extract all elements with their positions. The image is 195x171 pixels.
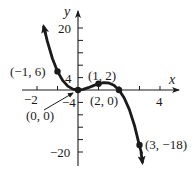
y-axis-label: y — [62, 4, 71, 19]
curve-arrow-top-icon — [44, 26, 46, 34]
x-tick-label-4: 4 — [156, 94, 163, 109]
point-neg1-6 — [54, 68, 60, 74]
function-curve — [44, 28, 141, 153]
point-label-neg1-6: (−1, 6) — [10, 64, 46, 79]
y-tick-label-neg4: −4 — [62, 95, 76, 110]
x-axis-label: x — [168, 72, 176, 87]
point-0-0 — [75, 87, 81, 93]
y-tick-label-neg20: −20 — [50, 145, 70, 160]
y-tick-label-20: 20 — [58, 21, 71, 36]
point-label-1-2: (1, 2) — [88, 68, 116, 83]
point-label-0-0: (0, 0) — [26, 108, 54, 123]
curve-arrow-bottom-icon — [141, 152, 143, 163]
function-graph: y x 20 4 −4 −20 −2 4 (−1, 6) (1, 2) (2, … — [0, 0, 195, 171]
x-tick-label-neg2: −2 — [24, 92, 38, 107]
point-label-3-neg18: (3, −18) — [145, 137, 187, 152]
point-3-neg18 — [136, 142, 142, 148]
point-label-2-0: (2, 0) — [90, 93, 118, 108]
